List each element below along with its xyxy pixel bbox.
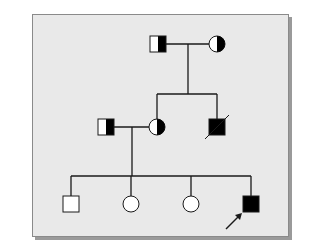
individual-III-1-unaffected-male xyxy=(63,196,79,212)
individual-III-4-affected-male-proband xyxy=(243,196,259,212)
individual-III-2-unaffected-female xyxy=(123,196,139,212)
individual-I-1-carrier-male xyxy=(150,36,166,52)
pedigree-diagram xyxy=(0,0,311,250)
individual-III-3-unaffected-female xyxy=(183,196,199,212)
individual-II-3-affected-deceased-male xyxy=(205,115,229,139)
individual-II-1-carrier-male xyxy=(98,119,114,135)
proband-arrow-icon xyxy=(226,213,242,229)
individual-I-2-carrier-female xyxy=(209,36,225,52)
individual-II-2-carrier-female xyxy=(149,119,165,135)
